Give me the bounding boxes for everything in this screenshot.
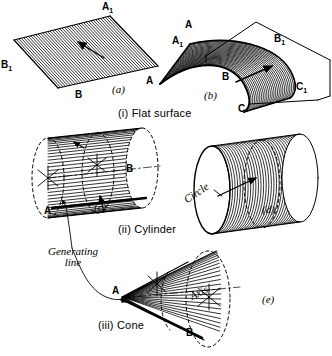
generating-line-family-a — [14, 16, 158, 88]
figure-artwork — [0, 0, 332, 356]
panel-d-cylinder — [194, 134, 318, 234]
label-b-B: B — [222, 72, 229, 82]
panel-tag-d: (d) — [262, 204, 275, 215]
label-e-B: B — [186, 328, 193, 338]
label-b-B1: B1 — [274, 34, 285, 46]
label-a-B: B — [75, 90, 82, 100]
label-generating-line: Generating line — [34, 246, 112, 268]
label-c-A: A — [44, 206, 51, 216]
label-a-B1: B1 — [1, 60, 12, 72]
label-b-A: A — [146, 76, 153, 86]
label-b-A-upper: A — [185, 20, 192, 30]
label-b-C1: C1 — [296, 82, 307, 94]
label-a-A1: A1 — [102, 2, 113, 14]
label-c-B: B — [126, 164, 133, 174]
panel-b-warped-surface — [160, 22, 330, 112]
edge-a-A1-B1 — [14, 16, 110, 40]
frame-b-bottom-right — [318, 96, 330, 100]
label-e-A: A — [112, 286, 119, 296]
caption-flat-surface: (i) Flat surface — [118, 108, 192, 119]
circle-d-far — [282, 134, 318, 222]
panel-a-flat-surface — [14, 16, 158, 88]
leader-d-circle — [214, 190, 222, 196]
edge-c-top — [48, 128, 142, 138]
axis-line-c — [48, 166, 160, 178]
panel-tag-b: (b) — [204, 90, 217, 101]
generating-circle-family-d — [212, 134, 318, 234]
label-b-A1: A1 — [172, 36, 183, 48]
panel-tag-e: (e) — [262, 294, 274, 305]
caption-cone: (iii) Cone — [98, 320, 144, 331]
leader-generating-line-upper — [66, 206, 72, 248]
engineering-surface-generation-figure: A1 B1 B (a) A A1 A B B1 C C1 (b) (i) Fla… — [0, 0, 332, 356]
panel-tag-c: (c) — [94, 202, 106, 213]
edge-d-bottom — [212, 222, 300, 234]
caption-cylinder: (ii) Cylinder — [118, 224, 176, 235]
label-generating-line-2: line — [34, 257, 112, 268]
edge-a-A-B — [58, 66, 158, 88]
label-b-C: C — [238, 104, 245, 114]
panel-tag-a: (a) — [112, 84, 125, 95]
